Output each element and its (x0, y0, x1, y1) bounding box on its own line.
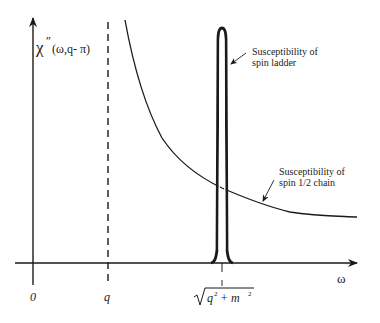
sqrt-q-exp: 2 (214, 290, 218, 298)
annotation-ladder-line1: Susceptibility of (252, 46, 319, 57)
sqrt-q: q (207, 291, 213, 305)
annotation-arrow-ladder (231, 53, 246, 64)
sqrt-plus-m: + m (220, 291, 240, 305)
chi-symbol: χ (35, 38, 44, 57)
tick-label-q: q (104, 290, 110, 304)
annotation-chain-line1: Susceptibility of (279, 166, 346, 177)
sqrt-m-exp: 2 (248, 290, 252, 298)
spin-ladder-peak (211, 28, 233, 263)
susceptibility-diagram: χ ″ (ω,q- π) ω 0 q q 2 + m 2 Susceptibil… (0, 0, 380, 323)
tick-label-zero: 0 (30, 290, 36, 304)
x-axis-label: ω (337, 271, 346, 286)
annotation-arrow-chain (263, 180, 274, 201)
chi-prime: ″ (46, 34, 51, 48)
chi-args: (ω,q- π) (52, 42, 90, 56)
annotation-ladder-line2: spin ladder (252, 57, 297, 68)
annotation-chain-line2: spin 1/2 chain (279, 177, 335, 188)
y-axis-label: χ ″ (ω,q- π) (35, 34, 90, 57)
tick-label-sqrt: q 2 + m 2 (194, 288, 254, 305)
